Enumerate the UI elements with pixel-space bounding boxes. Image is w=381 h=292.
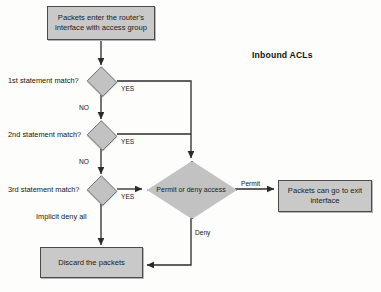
label-decision-2: 2nd statement match? — [8, 130, 81, 139]
node-exit-interface: Packets can go to exit interface — [278, 180, 372, 212]
node-decision-3 — [86, 176, 116, 203]
node-exit-line1: Packets can go to exit — [288, 186, 362, 196]
diamond-shape — [87, 120, 117, 150]
edge-label-yes-2: YES — [121, 137, 134, 146]
edge-label-yes-3: YES — [121, 192, 134, 201]
node-entry-line1: Packets enter the router's — [58, 13, 144, 23]
label-decision-3: 3rd statement match? — [8, 185, 79, 194]
node-permit-or-deny: Permit or deny access — [147, 161, 235, 217]
diagram-title: Inbound ACLs — [252, 50, 313, 60]
diamond-shape — [87, 66, 117, 96]
edge-label-no-1: NO — [79, 103, 89, 112]
permit-deny-line2: deny access — [187, 186, 226, 193]
diamond-shape — [87, 175, 117, 205]
edge-label-yes-1: YES — [121, 84, 134, 93]
node-decision-2 — [86, 121, 116, 148]
node-discard-label: Discard the packets — [58, 258, 125, 268]
node-entry: Packets enter the router's interface wit… — [47, 6, 155, 40]
edge-label-no-2: NO — [79, 157, 89, 166]
node-entry-line2: interface with access group — [55, 23, 147, 33]
node-exit-line2: interface — [310, 196, 339, 206]
flowchart-canvas: Inbound ACLs Packets enter the router's … — [0, 0, 381, 292]
edge-label-permit: Permit — [241, 179, 260, 188]
edge-label-deny: Deny — [195, 228, 210, 237]
node-permit-or-deny-label: Permit or deny access — [156, 185, 225, 194]
node-discard-packets: Discard the packets — [40, 247, 143, 278]
node-decision-1 — [86, 67, 116, 94]
edge-label-implicit-deny: Implicit deny all — [36, 212, 87, 221]
label-decision-1: 1st statement match? — [8, 76, 79, 85]
permit-deny-line1: Permit or — [156, 186, 184, 193]
